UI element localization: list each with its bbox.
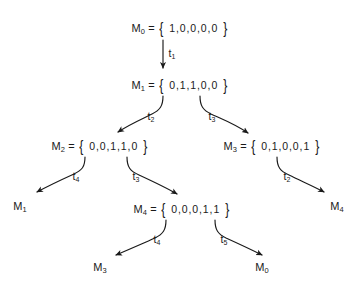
leaf-node-m3: M3 <box>93 262 106 273</box>
marking-vector: 0,0,0,1,1 <box>169 204 223 215</box>
edge-t2-M1-to-M2 <box>118 96 163 132</box>
marking-node-m4: M4 = { 0,0,0,1,1 } <box>133 204 230 215</box>
transition-label-t2-b: t2 <box>284 171 291 182</box>
transition-label-t4: t4 <box>73 171 80 182</box>
transition-label-t2: t2 <box>148 111 155 122</box>
transition-label-t3: t3 <box>209 111 216 122</box>
marking-vector: 0,1,0,0,1 <box>259 141 313 152</box>
leaf-node-m0: M0 <box>255 262 268 273</box>
leaf-node-m1: M1 <box>13 201 26 212</box>
equals-sign: = <box>68 141 75 152</box>
marking-vector: 0,1,1,0,0 <box>167 80 221 91</box>
marking-node-m0: M0 = { 1,0,0,0,0 } <box>131 23 228 34</box>
marking-vector: 0,0,1,1,0 <box>87 141 141 152</box>
marking-name: M0 <box>131 23 145 34</box>
transition-label-t5: t5 <box>221 234 228 245</box>
marking-name: M4 <box>133 204 147 215</box>
equals-sign: = <box>148 23 155 34</box>
marking-vector: 1,0,0,0,0 <box>167 23 221 34</box>
marking-name: M2 <box>51 141 65 152</box>
reachability-graph-figure: M0 = { 1,0,0,0,0 } M1 = { 0,1,1,0,0 } M2… <box>0 0 360 282</box>
marking-node-m3: M3 = { 0,1,0,0,1 } <box>223 141 320 152</box>
edge-t3-M1-to-M3 <box>200 96 248 133</box>
transition-label-t1: t1 <box>169 48 176 59</box>
equals-sign: = <box>240 141 247 152</box>
equals-sign: = <box>150 204 157 215</box>
equals-sign: = <box>148 80 155 91</box>
marking-name: M1 <box>131 80 145 91</box>
marking-name: M3 <box>223 141 237 152</box>
marking-node-m2: M2 = { 0,0,1,1,0 } <box>51 141 148 152</box>
leaf-node-m4: M4 <box>330 201 343 212</box>
marking-node-m1: M1 = { 0,1,1,0,0 } <box>131 80 228 91</box>
transition-label-t4-b: t4 <box>154 234 161 245</box>
transition-label-t3-b: t3 <box>133 171 140 182</box>
